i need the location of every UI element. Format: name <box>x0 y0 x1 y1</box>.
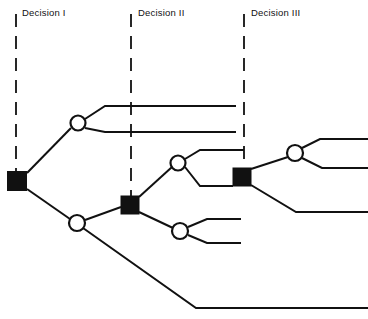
branch-chance-midupper-to-d3 <box>185 167 233 186</box>
decision-node-3 <box>233 168 251 186</box>
branch-chance-right-upper <box>302 139 368 148</box>
chance-node-bottom-left <box>69 215 85 231</box>
branch-d2-to-chance-midupper <box>139 167 172 197</box>
stage-label-decision-2: Decision II <box>138 8 185 18</box>
chance-node-top <box>71 116 86 131</box>
branch-chance-midupper-upper <box>185 150 244 159</box>
branch-d3-to-chance-right <box>251 157 288 169</box>
chance-node-mid-lower <box>172 223 188 239</box>
decision-node-group <box>8 168 252 214</box>
decision-node-2 <box>121 196 139 214</box>
stage-label-decision-3: Decision III <box>251 8 300 18</box>
branch-d3-lower <box>251 185 368 212</box>
decision-tree-diagram: Decision IDecision IIDecision III <box>0 0 368 319</box>
chance-node-group <box>69 116 303 240</box>
decision-node-1 <box>8 172 27 191</box>
chance-node-right <box>287 145 303 161</box>
branch-chance-top-lower <box>85 128 236 132</box>
branch-chance-bottomleft-to-d2 <box>85 207 121 220</box>
branch-d1-to-chance-top <box>27 128 71 173</box>
stage-label-decision-1: Decision I <box>22 8 66 18</box>
branch-chance-midlower-lower <box>188 235 241 243</box>
branch-chance-right-lower <box>302 158 368 168</box>
branch-d1-to-chance-bottomleft <box>27 189 70 219</box>
branch-d2-to-chance-midlower <box>139 212 173 228</box>
branch-chance-top-upper <box>85 106 236 119</box>
decision-tree-canvas <box>0 0 368 319</box>
branch-chance-bottomleft-long <box>83 228 368 308</box>
branch-chance-midlower-upper <box>188 219 241 227</box>
chance-node-mid-upper <box>171 156 186 171</box>
branch-group <box>27 106 368 308</box>
